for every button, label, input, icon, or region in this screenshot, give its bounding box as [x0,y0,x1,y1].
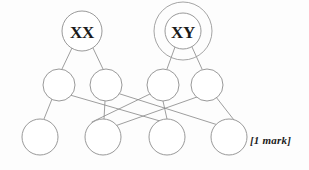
edge-gamete-1-to-offspring-1 [44,99,52,119]
offspring-node-2[interactable] [85,119,121,155]
gamete-node-3[interactable] [147,69,179,101]
edge-gamete-4-to-offspring-4 [216,97,234,120]
edge-xy-to-gamete-3 [167,47,175,69]
parent-xx-label: XX [70,23,95,42]
parent-node-xx[interactable]: XX [62,11,102,51]
genetics-diagram-canvas: XX XY [1 mark] [0,0,309,170]
gamete-node-2[interactable] [90,69,122,101]
bottom-row-group [22,119,247,155]
edge-xx-to-gamete-2 [93,48,103,69]
edge-gamete-3-to-offspring-3 [163,101,167,119]
offspring-node-3[interactable] [149,119,185,155]
parent-node-xy[interactable]: XY [154,2,212,60]
parent-xy-label: XY [171,23,195,42]
gamete-node-4[interactable] [191,69,223,101]
offspring-node-4[interactable] [211,119,247,155]
middle-row-group [43,69,223,101]
mark-annotation: [1 mark] [250,134,291,146]
edge-xx-to-gamete-1 [62,48,72,69]
offspring-node-1[interactable] [22,119,58,155]
edge-gamete-1-to-offspring-3 [70,95,160,121]
gamete-node-1[interactable] [43,69,75,101]
